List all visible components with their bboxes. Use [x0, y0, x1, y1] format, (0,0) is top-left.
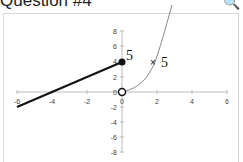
svg-text:8: 8 [113, 28, 117, 35]
svg-text:-4: -4 [111, 119, 117, 126]
svg-text:6: 6 [113, 43, 117, 50]
svg-text:-2: -2 [111, 104, 117, 111]
cross-marker: × [150, 57, 156, 68]
svg-text:-8: -8 [111, 149, 117, 156]
cross-point-label: 5 [161, 55, 168, 70]
svg-text:0: 0 [120, 98, 124, 105]
function-graph: -6 -4 -2 0 2 4 6 8 6 4 2 0 -2 -4 -6 -8 5… [0, 0, 243, 162]
svg-text:-2: -2 [84, 98, 90, 105]
svg-text:-4: -4 [49, 98, 55, 105]
svg-text:2: 2 [113, 74, 117, 81]
linear-segment [17, 62, 122, 107]
svg-text:6: 6 [225, 98, 229, 105]
filled-point [119, 59, 126, 66]
svg-text:0: 0 [113, 89, 117, 96]
open-point [119, 89, 126, 96]
svg-text:4: 4 [190, 98, 194, 105]
x-tick-labels: -6 -4 -2 0 2 4 6 [14, 98, 229, 105]
svg-text:-6: -6 [14, 98, 20, 105]
svg-text:2: 2 [155, 98, 159, 105]
svg-text:-6: -6 [111, 134, 117, 141]
filled-point-label: 5 [126, 48, 133, 63]
